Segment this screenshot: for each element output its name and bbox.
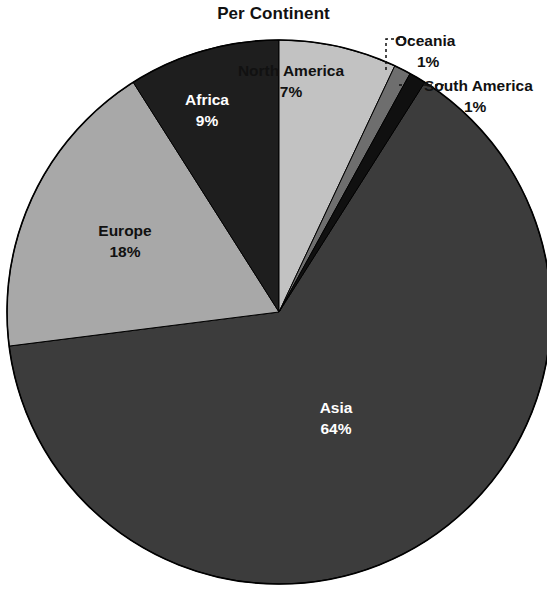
pie-chart: Per Continent North America 7% Africa 9%… xyxy=(0,0,547,600)
pie-graphic xyxy=(0,0,547,600)
